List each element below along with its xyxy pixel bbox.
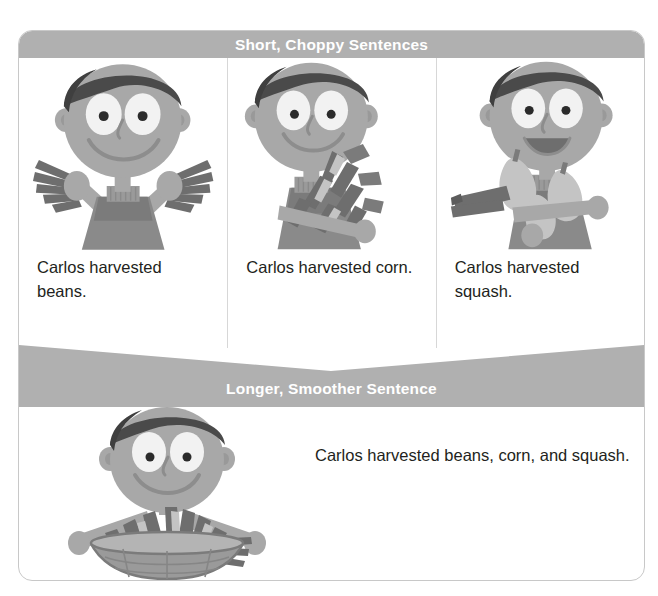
short-choppy-sentences-banner: Short, Choppy Sentences xyxy=(19,31,644,58)
boy-holding-corn-illustration xyxy=(228,58,435,250)
boy-holding-basket-illustration xyxy=(19,407,315,581)
panel-beans-caption: Carlos harvested beans. xyxy=(19,250,212,304)
panel-corn: Carlos harvested corn. xyxy=(227,58,435,348)
panel-squash: Carlos harvested squash. xyxy=(436,58,644,348)
panel-squash-caption: Carlos harvested squash. xyxy=(437,250,630,304)
longer-sentence-caption: Carlos harvested beans, corn, and squash… xyxy=(315,407,644,468)
illustration-page: Short, Choppy Sentences xyxy=(0,0,658,596)
panel-corn-caption: Carlos harvested corn. xyxy=(228,250,421,280)
longer-sentence-panel: Carlos harvested beans, corn, and squash… xyxy=(19,407,644,581)
longer-smoother-sentence-banner: Longer, Smoother Sentence xyxy=(19,345,644,407)
short-choppy-sentences-banner-label: Short, Choppy Sentences xyxy=(235,36,428,54)
boy-holding-beans-illustration xyxy=(19,58,227,250)
panel-beans: Carlos harvested beans. xyxy=(19,58,227,348)
comparison-card: Short, Choppy Sentences xyxy=(18,30,645,581)
longer-smoother-sentence-banner-label: Longer, Smoother Sentence xyxy=(19,375,644,403)
short-sentence-panel-row: Carlos harvested beans. xyxy=(19,58,644,348)
boy-holding-squash-illustration xyxy=(437,58,644,250)
